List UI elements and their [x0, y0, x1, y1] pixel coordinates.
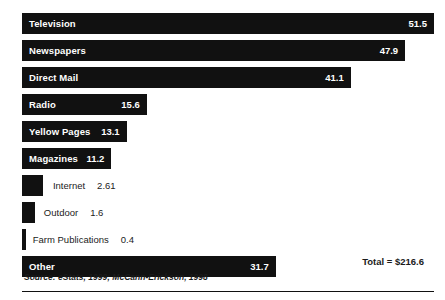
bar-magazines: Magazines 11.2: [22, 148, 111, 169]
bar-row-newspapers: Newspapers 47.9: [22, 40, 434, 61]
bar-label-yellow-pages: Yellow Pages: [22, 126, 90, 137]
chart-plot-area: Television 51.5 Newspapers 47.9 Direct M…: [22, 13, 434, 283]
bar-radio: Radio 15.6: [22, 94, 147, 115]
bar-row-television: Television 51.5: [22, 13, 434, 34]
bar-row-internet: Internet 2.61: [22, 175, 434, 196]
bar-label-television: Television: [22, 18, 76, 29]
bar-farm-publications: [22, 229, 26, 250]
bar-yellow-pages: Yellow Pages 13.1: [22, 121, 127, 142]
bar-label-newspapers: Newspapers: [22, 45, 86, 56]
bar-internet: [22, 175, 43, 196]
bar-row-radio: Radio 15.6: [22, 94, 434, 115]
bar-value-direct-mail: 41.1: [325, 72, 344, 83]
bar-outside-text-farm-publications: Farm Publications 0.4: [33, 229, 134, 250]
bar-row-magazines: Magazines 11.2: [22, 148, 434, 169]
bar-television: Television 51.5: [22, 13, 434, 34]
bar-outdoor: [22, 202, 35, 223]
bar-label-internet: Internet: [53, 180, 85, 191]
bar-label-farm-publications: Farm Publications: [33, 234, 109, 245]
bar-outside-text-internet: Internet 2.61: [53, 175, 116, 196]
bar-value-outdoor: 1.6: [90, 207, 103, 218]
bar-row-direct-mail: Direct Mail 41.1: [22, 67, 434, 88]
bar-value-radio: 15.6: [121, 99, 140, 110]
bar-value-other: 31.7: [250, 261, 269, 272]
bar-label-outdoor: Outdoor: [44, 207, 78, 218]
bar-label-direct-mail: Direct Mail: [22, 72, 78, 83]
bar-value-newspapers: 47.9: [380, 45, 399, 56]
bar-row-outdoor: Outdoor 1.6: [22, 202, 434, 223]
bar-row-yellow-pages: Yellow Pages 13.1: [22, 121, 434, 142]
bar-label-radio: Radio: [22, 99, 56, 110]
source-note: Source: eStats, 1999; McCann-Erickson, 1…: [24, 272, 208, 282]
bar-newspapers: Newspapers 47.9: [22, 40, 405, 61]
bar-direct-mail: Direct Mail 41.1: [22, 67, 351, 88]
total-label: Total = $216.6: [362, 256, 424, 267]
bar-value-television: 51.5: [409, 18, 428, 29]
bar-outside-text-outdoor: Outdoor 1.6: [44, 202, 104, 223]
bar-label-other: Other: [22, 261, 55, 272]
ad-spending-bar-chart: Television 51.5 Newspapers 47.9 Direct M…: [0, 0, 445, 300]
bottom-divider: [22, 291, 434, 292]
bar-value-yellow-pages: 13.1: [101, 126, 120, 137]
bar-value-magazines: 11.2: [86, 153, 104, 164]
bar-label-magazines: Magazines: [22, 153, 78, 164]
bar-value-internet: 2.61: [97, 180, 116, 191]
bar-value-farm-publications: 0.4: [121, 234, 134, 245]
bar-row-farm-publications: Farm Publications 0.4: [22, 229, 434, 250]
